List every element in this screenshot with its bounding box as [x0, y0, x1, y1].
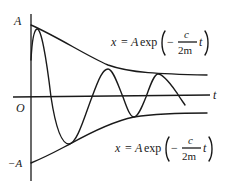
origin-label: O — [16, 101, 25, 115]
time-axis — [13, 95, 210, 97]
svg-text:exp: exp — [140, 35, 157, 49]
svg-text:2m: 2m — [178, 44, 193, 56]
svg-text:=: = — [125, 141, 132, 155]
amplitude-bottom-label: −A — [8, 157, 22, 169]
svg-text:=: = — [121, 35, 128, 49]
svg-text:t: t — [203, 141, 207, 155]
svg-text:t: t — [199, 35, 203, 49]
svg-text:exp: exp — [144, 141, 161, 155]
svg-text:−: − — [167, 35, 174, 49]
svg-text:c: c — [188, 134, 193, 146]
lower-envelope-equation: x = A exp − c 2m t — [114, 134, 212, 162]
svg-text:x: x — [114, 141, 121, 155]
svg-text:c: c — [184, 28, 189, 40]
time-axis-label: t — [213, 88, 217, 102]
svg-text:A: A — [134, 141, 143, 155]
svg-text:x: x — [110, 35, 117, 49]
upper-envelope-equation: x = A exp − c 2m t — [110, 28, 208, 56]
damped-oscillation-diagram: A O −A t x = A exp − c 2m t x = A exp − … — [0, 0, 231, 188]
svg-text:−: − — [171, 141, 178, 155]
lower-envelope-curve — [31, 113, 207, 163]
amplitude-top-label: A — [13, 14, 22, 28]
svg-text:A: A — [130, 35, 139, 49]
svg-text:2m: 2m — [182, 150, 197, 162]
